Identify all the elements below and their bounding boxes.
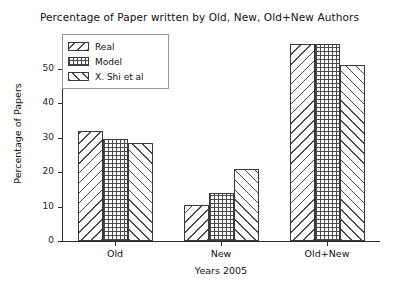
legend-swatch-icon bbox=[68, 57, 89, 66]
bar bbox=[78, 131, 103, 241]
bar bbox=[340, 65, 365, 241]
bar bbox=[128, 143, 153, 241]
legend-item[interactable]: X. Shi et al bbox=[68, 69, 163, 84]
legend-swatch-icon bbox=[68, 72, 89, 81]
y-tick bbox=[58, 138, 62, 139]
x-tick-label: New bbox=[181, 248, 261, 259]
y-tick bbox=[58, 207, 62, 208]
chart-legend[interactable]: RealModelX. Shi et al bbox=[62, 34, 169, 89]
x-axis-label: Years 2005 bbox=[62, 265, 380, 276]
bar bbox=[209, 193, 234, 241]
legend-swatch-icon bbox=[68, 42, 89, 51]
x-tick bbox=[115, 242, 116, 246]
legend-item[interactable]: Model bbox=[68, 54, 163, 69]
y-tick bbox=[58, 103, 62, 104]
y-axis-label: Percentage of Papers bbox=[12, 59, 23, 209]
y-tick-label: 10 bbox=[28, 201, 54, 211]
x-tick bbox=[221, 242, 222, 246]
bar bbox=[315, 44, 340, 241]
bar bbox=[290, 44, 315, 241]
chart-title: Percentage of Paper written by Old, New,… bbox=[0, 11, 399, 23]
y-tick-label: 40 bbox=[28, 97, 54, 107]
y-tick bbox=[58, 241, 62, 242]
bar bbox=[184, 205, 209, 241]
x-tick-label: Old+New bbox=[287, 248, 367, 259]
y-tick-label: 20 bbox=[28, 166, 54, 176]
bar bbox=[103, 139, 128, 241]
x-tick-label: Old bbox=[75, 248, 155, 259]
y-tick-label: 0 bbox=[28, 235, 54, 245]
legend-label: Real bbox=[95, 42, 114, 52]
y-tick-label: 30 bbox=[28, 132, 54, 142]
x-tick bbox=[327, 242, 328, 246]
legend-label: Model bbox=[95, 57, 122, 67]
bar bbox=[234, 169, 259, 241]
y-tick bbox=[58, 172, 62, 173]
legend-item[interactable]: Real bbox=[68, 39, 163, 54]
y-tick-label: 50 bbox=[28, 63, 54, 73]
legend-label: X. Shi et al bbox=[95, 72, 144, 82]
chart-figure: Percentage of Paper written by Old, New,… bbox=[0, 0, 399, 294]
